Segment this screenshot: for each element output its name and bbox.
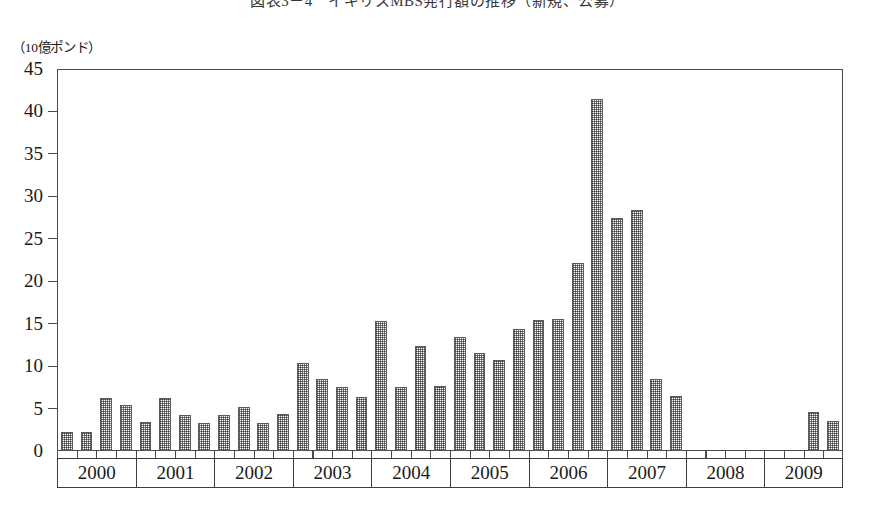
quarter-tick: [214, 451, 215, 458]
bar: [297, 363, 309, 451]
x-axis: 2000200120022003200420052006200720082009: [57, 451, 843, 497]
quarter-tick: [332, 451, 333, 458]
quarter-tick: [509, 451, 510, 458]
bar: [238, 407, 250, 451]
quarter-tick: [529, 451, 530, 458]
quarter-tick: [784, 451, 785, 458]
x-axis-year-label: 2004: [371, 459, 450, 487]
bar: [61, 432, 73, 451]
bar: [572, 263, 584, 451]
bar: [533, 320, 545, 451]
bar: [513, 329, 525, 451]
quarter-tick: [666, 451, 667, 458]
bar: [827, 421, 839, 451]
quarter-tick: [607, 451, 608, 458]
y-tick-label: 10: [9, 354, 43, 378]
y-tick-label: 15: [9, 312, 43, 336]
bar: [277, 414, 289, 451]
y-tick-mark: [48, 366, 57, 367]
quarter-tick: [155, 451, 156, 458]
quarter-tick: [371, 451, 372, 458]
quarter-tick: [647, 451, 648, 458]
bar: [631, 210, 643, 451]
quarter-tick: [411, 451, 412, 458]
bar: [100, 398, 112, 451]
quarter-tick: [764, 451, 765, 458]
bar: [81, 432, 93, 451]
quarter-tick: [842, 451, 843, 458]
y-tick-label: 25: [9, 227, 43, 251]
bar: [356, 397, 368, 451]
quarter-tick: [568, 451, 569, 458]
y-tick-mark: [48, 153, 57, 154]
y-tick-mark: [48, 238, 57, 239]
x-axis-year-label: 2007: [607, 459, 686, 487]
bar: [218, 415, 230, 451]
y-tick-mark: [48, 323, 57, 324]
quarter-tick: [725, 451, 726, 458]
bar: [611, 218, 623, 451]
y-tick-label: 30: [9, 184, 43, 208]
y-tick-label: 35: [9, 142, 43, 166]
quarter-tick: [627, 451, 628, 458]
x-axis-year-label: 2000: [57, 459, 136, 487]
quarter-tick: [823, 451, 824, 458]
x-axis-year-label: 2001: [136, 459, 215, 487]
x-axis-year-label: 2006: [529, 459, 608, 487]
bar: [179, 415, 191, 452]
quarter-tick: [234, 451, 235, 458]
bar: [257, 423, 269, 451]
bar: [552, 319, 564, 451]
quarter-tick: [450, 451, 451, 458]
quarter-tick: [254, 451, 255, 458]
bar: [434, 386, 446, 451]
bar: [375, 321, 387, 451]
bar: [474, 353, 486, 451]
quarter-tick: [430, 451, 431, 458]
x-axis-year-label: 2002: [214, 459, 293, 487]
quarter-tick: [588, 451, 589, 458]
quarter-tick: [77, 451, 78, 458]
x-axis-year-label: 2005: [450, 459, 529, 487]
quarter-tick: [489, 451, 490, 458]
bar: [395, 387, 407, 452]
quarter-tick: [391, 451, 392, 458]
year-band: 2000200120022003200420052006200720082009: [57, 458, 843, 488]
quarter-tick: [804, 451, 805, 458]
x-axis-year-label: 2008: [686, 459, 765, 487]
y-tick-label: 40: [9, 99, 43, 123]
y-tick-label: 5: [9, 397, 43, 421]
figure-title: 図表3－4 イギリスMBS発行額の推移（新規、公募）: [0, 0, 875, 10]
y-axis-unit-label: （10億ポンド）: [12, 36, 101, 56]
bar: [120, 405, 132, 451]
y-tick-label: 45: [9, 57, 43, 81]
quarter-tick: [745, 451, 746, 458]
bar: [140, 422, 152, 451]
quarter-tick: [705, 451, 706, 458]
bar: [454, 337, 466, 451]
quarter-tick: [273, 451, 274, 458]
quarter-tick: [116, 451, 117, 458]
bar: [650, 379, 662, 451]
y-tick-label: 0: [9, 439, 43, 463]
quarter-tick: [96, 451, 97, 458]
bar: [159, 398, 171, 451]
quarter-tick: [136, 451, 137, 458]
bar: [808, 412, 820, 451]
quarter-tick: [195, 451, 196, 458]
quarter-tick: [293, 451, 294, 458]
quarter-tick: [175, 451, 176, 458]
quarter-tick: [470, 451, 471, 458]
y-tick-mark: [48, 281, 57, 282]
x-axis-year-label: 2003: [293, 459, 372, 487]
bar: [415, 346, 427, 451]
quarter-tick: [686, 451, 687, 458]
bar: [493, 360, 505, 451]
x-axis-year-label: 2009: [764, 459, 843, 487]
bar: [591, 99, 603, 451]
y-tick-mark: [48, 111, 57, 112]
y-tick-mark: [48, 408, 57, 409]
bar: [198, 423, 210, 451]
quarter-tick: [312, 451, 313, 458]
bar: [336, 387, 348, 451]
